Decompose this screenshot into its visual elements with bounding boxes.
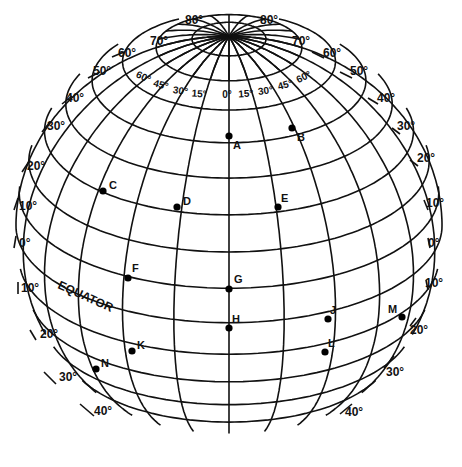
latitude-label-left: 30°: [59, 370, 77, 384]
longitude-scale: 60°45°30°15°0°15°30°45°60°: [134, 69, 312, 100]
scale-tick: [44, 372, 56, 384]
latitude-label-right: 20°: [410, 323, 428, 337]
point-j-label: J: [330, 304, 336, 316]
latitude-label-right: 80°: [260, 13, 278, 27]
latitude-label-right: 40°: [377, 91, 395, 105]
point-l-marker: [321, 348, 328, 355]
point-h-label: H: [232, 313, 240, 325]
scale-tick: [80, 404, 94, 416]
latitude-label-left: 80°: [185, 13, 203, 27]
latitude-label-left: 0°: [19, 236, 31, 250]
latitude-label-left: 10°: [19, 199, 37, 213]
point-e-marker: [274, 203, 281, 210]
point-b-marker: [288, 124, 295, 131]
point-g-marker: [225, 285, 232, 292]
point-h-marker: [225, 324, 232, 331]
latitude-label-right: 70°: [292, 34, 310, 48]
point-c-marker: [99, 187, 106, 194]
longitude-label: 30°: [257, 84, 274, 97]
point-d-label: D: [183, 195, 191, 207]
point-e-label: E: [281, 192, 288, 204]
latitude-label-right: 60°: [323, 46, 341, 60]
meridian-line: [229, 36, 284, 431]
point-a-marker: [225, 132, 232, 139]
longitude-label: 60°: [134, 69, 152, 85]
latitude-label-left: 10°: [21, 281, 39, 295]
latitude-label-right: 20°: [417, 151, 435, 165]
meridian-line: [23, 36, 229, 334]
point-a-label: A: [233, 139, 241, 151]
globe-diagram: 80°70°60°50°40°30°20°10°0°10°20°30°40°80…: [0, 0, 462, 467]
equator-label: EQUATOR: [56, 278, 116, 315]
longitude-label: 45°: [152, 77, 169, 92]
point-l-label: L: [328, 337, 335, 349]
point-d-marker: [173, 203, 180, 210]
point-m-label: M: [388, 303, 397, 315]
longitude-label: 30°: [172, 84, 189, 97]
longitude-label: 15°: [238, 88, 254, 100]
latitude-label-left: 40°: [94, 404, 112, 418]
point-n-marker: [92, 365, 99, 372]
longitude-label: 0°: [222, 89, 232, 100]
longitude-label: 60°: [294, 69, 312, 85]
longitude-label: 45°: [276, 77, 293, 92]
point-n-label: N: [101, 357, 109, 369]
latitude-label-left: 70°: [150, 34, 168, 48]
point-m-marker: [398, 313, 405, 320]
point-k-label: K: [137, 339, 145, 351]
point-j-marker: [324, 315, 331, 322]
longitude-label: 15°: [191, 88, 207, 100]
latitude-label-left: 20°: [40, 327, 58, 341]
latitude-label-right: 30°: [386, 365, 404, 379]
globe-grid: 80°70°60°50°40°30°20°10°0°10°20°30°40°80…: [0, 0, 462, 467]
point-b-label: B: [297, 131, 305, 143]
polar-meridian-line: [210, 36, 229, 79]
meridian-line: [229, 36, 435, 334]
point-c-label: C: [109, 179, 117, 191]
latitude-label-right: 30°: [397, 119, 415, 133]
point-f-label: F: [132, 262, 139, 274]
point-g-label: G: [234, 273, 243, 285]
graticule: [16, 15, 442, 434]
scale-tick: [30, 330, 36, 340]
latitude-label-right: 50°: [350, 64, 368, 78]
labeled-points: ABCDEFGHJKLMN: [92, 124, 405, 372]
latitude-label-right: 10°: [426, 196, 444, 210]
point-k-marker: [128, 347, 135, 354]
scale-tick: [14, 236, 16, 248]
polar-meridian-line: [229, 36, 248, 79]
latitude-label-left: 50°: [93, 64, 111, 78]
point-f-marker: [124, 274, 131, 281]
latitude-label-left: 30°: [47, 119, 65, 133]
